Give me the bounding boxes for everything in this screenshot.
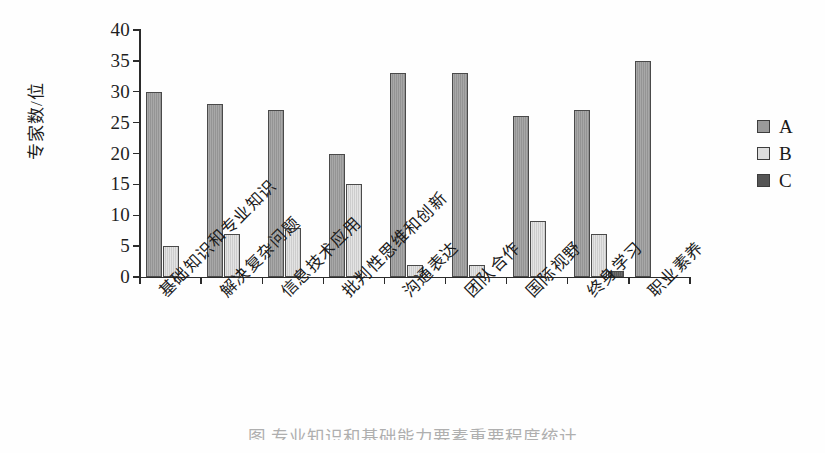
x-axis-tick <box>200 277 201 284</box>
y-axis-tick <box>133 91 140 92</box>
y-axis-title: 专家数/位 <box>28 46 46 196</box>
y-axis-tick-label: 15 <box>96 174 130 193</box>
y-axis-tick <box>133 60 140 61</box>
x-axis-tick <box>384 277 385 284</box>
legend-label: C <box>779 171 792 190</box>
legend-item-a[interactable]: A <box>757 113 819 140</box>
x-axis-tick <box>628 277 629 284</box>
y-axis-tick <box>133 215 140 216</box>
y-axis-tick-label: 25 <box>96 113 130 132</box>
y-axis-tick-label: 20 <box>96 144 130 163</box>
x-axis-tick <box>323 277 324 284</box>
y-axis-tick-label: 35 <box>96 51 130 70</box>
y-axis-tick <box>133 122 140 123</box>
x-axis-tick <box>445 277 446 284</box>
x-axis-tick <box>567 277 568 284</box>
y-axis-tick-label: 0 <box>96 267 130 286</box>
x-axis-tick <box>506 277 507 284</box>
y-axis-tick <box>133 245 140 246</box>
legend-swatch-icon <box>757 147 770 160</box>
legend-swatch-icon <box>757 174 770 187</box>
y-axis-tick-label: 5 <box>96 236 130 255</box>
legend-item-c[interactable]: C <box>757 167 819 194</box>
bar-a-1 <box>146 92 162 277</box>
y-axis-tick-label: 30 <box>96 82 130 101</box>
y-axis-tick-label: 40 <box>96 20 130 39</box>
x-category-label: 职业素养 <box>645 239 707 301</box>
legend-swatch-icon <box>757 120 770 133</box>
x-axis-tick <box>139 277 140 284</box>
bar-chart-plot-area: 专家数/位 0510152025303540 基础知识和专业知识解决复杂问题信息… <box>0 0 825 453</box>
y-axis-tick <box>133 184 140 185</box>
figure-caption: 图 专业知识和基础能力要素重要程度统计 <box>0 427 825 440</box>
y-axis-tick <box>133 153 140 154</box>
x-axis-tick <box>262 277 263 284</box>
legend-label: B <box>779 144 792 163</box>
x-axis-tick <box>689 277 690 284</box>
chart-page: 专家数/位 0510152025303540 基础知识和专业知识解决复杂问题信息… <box>0 0 825 453</box>
y-axis-tick <box>133 29 140 30</box>
legend-label: A <box>779 117 793 136</box>
legend-item-b[interactable]: B <box>757 140 819 167</box>
chart-legend: ABC <box>757 113 819 194</box>
y-axis-tick-label: 10 <box>96 205 130 224</box>
